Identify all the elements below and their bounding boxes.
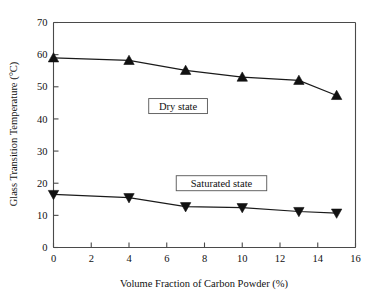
y-tick-label: 30 (37, 146, 48, 157)
annotation-label: Dry state (159, 101, 198, 112)
x-tick-label: 0 (51, 253, 56, 264)
y-tick-label: 0 (42, 242, 47, 253)
chart-figure: 010203040506070 0246810121416 Dry stateS… (0, 0, 377, 295)
y-tick-label: 40 (37, 114, 48, 125)
x-tick-label: 14 (313, 253, 324, 264)
x-tick-label: 10 (237, 253, 248, 264)
annotation-saturated-state: Saturated state (176, 176, 266, 191)
x-tick-label: 4 (126, 253, 132, 264)
y-tick-label: 20 (37, 178, 48, 189)
x-tick-label: 2 (89, 253, 94, 264)
y-tick-label: 60 (37, 49, 48, 60)
x-tick-label: 16 (350, 253, 361, 264)
y-tick-label: 70 (37, 17, 48, 28)
y-tick-label: 10 (37, 210, 48, 221)
annotation-label: Saturated state (191, 178, 253, 189)
x-axis-title: Volume Fraction of Carbon Powder (%) (120, 278, 289, 290)
y-axis-title: Glass Transition Temperature (°C) (8, 61, 20, 206)
x-tick-label: 8 (202, 253, 207, 264)
y-tick-label: 50 (37, 81, 48, 92)
chart-background (0, 0, 377, 295)
annotation-dry-state: Dry state (149, 99, 208, 114)
x-tick-label: 12 (275, 253, 286, 264)
x-tick-label: 6 (164, 253, 169, 264)
glass-transition-temperature-line-chart: 010203040506070 0246810121416 Dry stateS… (0, 0, 377, 295)
